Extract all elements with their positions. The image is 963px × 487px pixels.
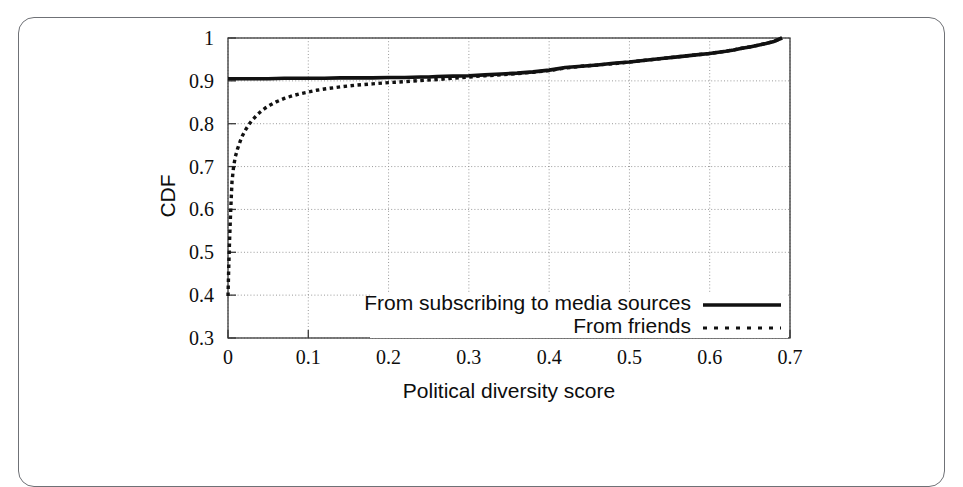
x-axis-tick-labels: 00.10.20.30.40.50.60.7 (223, 346, 803, 368)
x-axis-title: Political diversity score (403, 379, 615, 402)
y-tick-label: 0.6 (189, 198, 214, 220)
x-tick-label: 0.5 (617, 346, 642, 368)
y-tick-label: 0.5 (189, 241, 214, 263)
y-tick-label: 0.7 (189, 156, 214, 178)
legend-item-label-media-sources: From subscribing to media sources (364, 291, 691, 314)
y-tick-label: 0.9 (189, 70, 214, 92)
x-tick-label: 0 (223, 346, 233, 368)
y-tick-label: 0.3 (189, 327, 214, 349)
legend-item-label-friends: From friends (573, 314, 691, 337)
y-tick-label: 1 (204, 27, 214, 49)
x-tick-label: 0.1 (296, 346, 321, 368)
y-axis-tick-labels: 0.30.40.50.60.70.80.91 (189, 27, 214, 349)
x-tick-label: 0.4 (537, 346, 562, 368)
y-tick-label: 0.4 (189, 284, 214, 306)
y-axis-title: CDF (156, 174, 179, 217)
x-tick-label: 0.3 (456, 346, 481, 368)
x-tick-label: 0.6 (697, 346, 722, 368)
x-tick-label: 0.7 (778, 346, 803, 368)
series-line-media-sources (228, 38, 782, 79)
chart-legend: From subscribing to media sources From f… (364, 291, 788, 338)
y-tick-label: 0.8 (189, 113, 214, 135)
x-tick-label: 0.2 (376, 346, 401, 368)
